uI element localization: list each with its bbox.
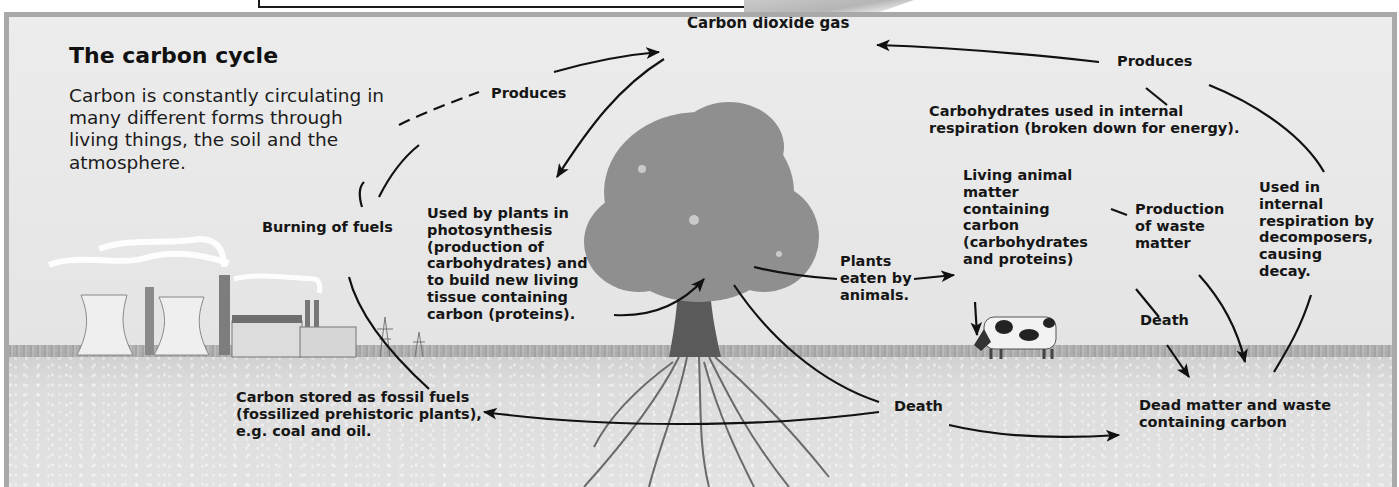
label-burning-of-fuels: Burning of fuels xyxy=(262,219,393,236)
label-death-plant: Death xyxy=(894,398,943,415)
cow-illustration xyxy=(974,317,1056,359)
label-carbon-dioxide-gas: Carbon dioxide gas xyxy=(687,15,849,32)
label-dead-matter-and-waste: Dead matter and waste containing carbon xyxy=(1139,397,1331,431)
diagram-title: The carbon cycle xyxy=(69,43,278,69)
label-carbohydrate-respiration: Carbohydrates used in internal respirati… xyxy=(929,103,1239,137)
top-decorative-swoosh xyxy=(744,0,914,12)
label-plants-eaten-by-animals: Plants eaten by animals. xyxy=(840,253,912,303)
label-fossil-fuels: Carbon stored as fossil fuels (fossilize… xyxy=(236,389,482,439)
power-station-illustration xyxy=(49,239,425,357)
label-photosynthesis: Used by plants in photosynthesis (produc… xyxy=(427,205,588,323)
label-living-animal-matter: Living animal matter containing carbon (… xyxy=(963,167,1088,268)
intro-paragraph: Carbon is constantly circulating in many… xyxy=(69,85,384,174)
tree-illustration xyxy=(584,102,829,487)
carbon-cycle-panel: The carbon cycle Carbon is constantly ci… xyxy=(4,12,1397,487)
top-tab-box xyxy=(258,0,746,8)
label-decomposers-respiration: Used in internal respiration by decompos… xyxy=(1259,179,1374,280)
label-produces-left: Produces xyxy=(491,85,567,102)
label-produces-right: Produces xyxy=(1117,53,1193,70)
label-death-animal: Death xyxy=(1140,312,1189,329)
label-production-of-waste: Production of waste matter xyxy=(1135,201,1224,251)
